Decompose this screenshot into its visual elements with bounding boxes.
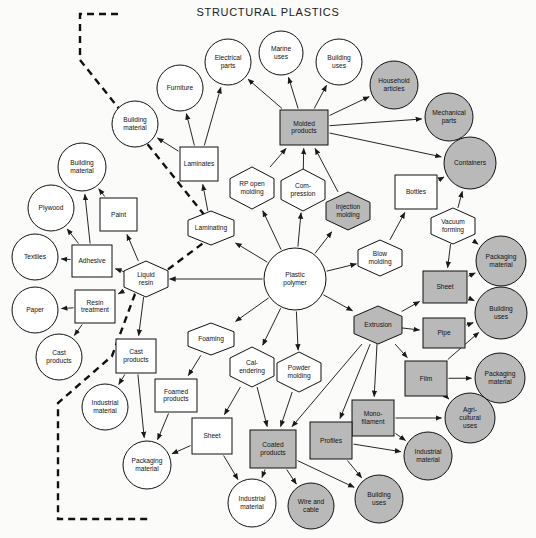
edge-blow-molding-to-bottles [390,213,405,240]
edge-molded-products-to-electrical-parts [248,79,282,108]
edge-molded-products-to-mechanical-parts [330,119,422,126]
node-label: Moldedproducts [291,119,317,135]
edge-coated-products-to-wire-and-cable [287,470,297,485]
edge-plastic-polymer-to-extrusion [323,295,352,311]
edge-paint-to-building-material [99,189,105,197]
edge-profiles-to-industrial-material [354,444,401,452]
edge-vacuum-forming-to-sheet [448,244,451,267]
structural-plastics-diagram: STRUCTURAL PLASTICS BuildingmaterialFurn… [0,0,536,538]
node-textiles[interactable]: Textiles [12,234,58,280]
node-paint[interactable]: Paint [100,198,137,231]
node-label: Plywood [39,204,64,212]
node-sheet[interactable]: Sheet [192,418,232,454]
node-resin-treatment[interactable]: Resintreatment [75,290,115,323]
node-laminating[interactable]: Laminating [188,211,234,245]
edge-extrusion-to-sheet [402,302,420,312]
node-label: Industrialmaterial [92,399,119,414]
node-plastic-polymer[interactable]: Plasticpolymer [264,248,326,310]
node-cast-products[interactable]: Castproducts [116,339,156,373]
node-label: Industrialmaterial [415,448,442,463]
edge-liquid-resin-to-cast-products [139,297,144,335]
edge-cal-endering-to-sheet [225,387,241,415]
node-laminates[interactable]: Laminates [180,147,218,181]
node-building-uses[interactable]: Buildinguses [475,287,527,339]
node-building-material[interactable]: Buildingmaterial [58,143,106,191]
node-adhesive[interactable]: Adhesive [72,245,112,277]
node-label: RP openmolding [239,180,265,196]
node-profiles[interactable]: Profiles [310,422,352,459]
node-packaging-material[interactable]: Packagingmaterial [123,441,171,489]
node-mono-filament[interactable]: Mono-filament [352,400,394,436]
node-label: Injectionmolding [336,203,361,219]
node-powder-molding[interactable]: Powdermolding [277,352,321,392]
node-foaming[interactable]: Foaming [188,323,234,355]
node-coated-products[interactable]: Coatedproducts [250,430,296,468]
edge-coated-products-to-industrial-material [262,470,265,478]
edge-powder-molding-to-coated-products [281,392,293,427]
node-plywood[interactable]: Plywood [28,185,74,231]
node-label: Furniture [167,84,194,91]
edge-liquid-resin-to-adhesive [116,269,125,272]
node-label: Containers [454,159,487,166]
node-label: Film [420,374,433,381]
node-building-uses[interactable]: Buildinguses [316,39,362,85]
edge-molded-products-to-building-uses [314,85,326,108]
node-blow-molding[interactable]: Blowmolding [358,240,402,276]
node-com-pression[interactable]: Com-pression [281,169,325,211]
edge-adhesive-to-textiles [61,259,70,260]
node-industrial-material[interactable]: Industrialmaterial [228,479,276,527]
edge-plastic-polymer-to-blow-molding [327,264,357,271]
node-wire-and-cable[interactable]: Wire andcable [288,483,334,529]
node-extrusion[interactable]: Extrusion [354,306,402,344]
node-electrical-parts[interactable]: Electricalparts [205,39,251,85]
edge-liquid-resin-to-paint [127,235,138,261]
edge-rp-open-molding-to-molded-products [270,149,286,168]
node-label: Packagingmaterial [486,253,517,268]
node-injection-molding[interactable]: Injectionmolding [326,192,370,230]
node-cal-endering[interactable]: Cal-endering [230,347,274,387]
node-liquid-resin[interactable]: Liquidresin [124,261,168,297]
edge-plastic-polymer-to-cal-endering [263,308,281,345]
node-pipe[interactable]: Pipe [423,318,465,348]
node-label: Industrialmaterial [239,495,266,510]
edge-adhesive-to-building-material [85,194,90,243]
edge-film-to-agri-cultural-uses [447,398,449,400]
node-label: Adhesive [78,257,105,264]
node-label: Vacuumforming [441,218,465,234]
node-bottles[interactable]: Bottles [395,175,437,209]
node-mechanical-parts[interactable]: Mechanicalparts [425,93,473,141]
node-building-material[interactable]: Buildingmaterial [112,101,158,147]
edge-sheet-to-industrial-material [224,456,238,480]
node-sheet[interactable]: Sheet [423,271,467,303]
node-packaging-material[interactable]: Packagingmaterial [475,353,525,403]
edge-molded-products-to-marine-uses [289,77,299,108]
edge-bottles-to-containers [439,177,445,180]
node-vacuum-forming[interactable]: Vacuumforming [431,208,475,244]
node-industrial-material[interactable]: Industrialmaterial [82,384,128,430]
edge-plastic-polymer-to-injection-molding [315,232,332,254]
node-label: Bottles [406,188,427,195]
node-label: Pipe [437,329,451,337]
node-industrial-material[interactable]: Industrialmaterial [404,432,452,480]
node-marine-uses[interactable]: Marineuses [259,31,303,75]
node-film[interactable]: Film [405,361,447,396]
node-cast-products[interactable]: Castproducts [36,334,82,380]
node-molded-products[interactable]: Moldedproducts [280,110,328,145]
node-label: Laminating [195,224,228,232]
edge-cast-products-to-packaging-material [138,375,144,438]
node-building-uses[interactable]: Buildinguses [355,475,403,523]
node-packaging-material[interactable]: Packagingmaterial [476,236,526,286]
edge-laminating-to-laminates [203,185,208,211]
node-agri-cultural-uses[interactable]: Agri-culturaluses [445,393,495,443]
node-household-articles[interactable]: Householdarticles [370,61,418,109]
node-paper[interactable]: Paper [12,287,58,333]
node-furniture[interactable]: Furniture [157,65,203,111]
node-containers[interactable]: Containers [444,137,496,189]
node-layer: BuildingmaterialFurnitureElectricalparts… [12,31,527,529]
edge-resin-treatment-to-paper [62,308,74,309]
node-label: Laminates [184,160,215,167]
node-foamed-products[interactable]: Foamedproducts [155,379,197,412]
edge-molded-products-to-household-articles [330,97,370,116]
node-rp-open-molding[interactable]: RP openmolding [230,167,274,209]
page-title: STRUCTURAL PLASTICS [196,6,339,18]
